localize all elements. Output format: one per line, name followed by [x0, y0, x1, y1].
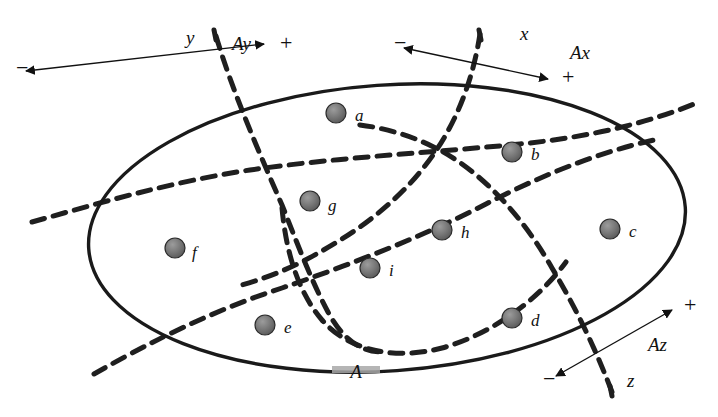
node-d-sphere[interactable]: [502, 308, 522, 328]
axis-x-plus-sign: +: [562, 64, 574, 89]
node-c-sphere[interactable]: [600, 219, 620, 239]
axis-letter-z: z: [626, 370, 635, 391]
node-f-sphere[interactable]: [165, 238, 185, 258]
diagram-canvas: a b c d e f g h i A y Ay − + x Ax − + z: [0, 0, 718, 417]
node-b-sphere[interactable]: [502, 142, 522, 162]
node-g-sphere[interactable]: [300, 191, 320, 211]
axis-arrow-x: [404, 48, 548, 79]
axis-x-minus-sign: −: [394, 30, 406, 55]
node-label-f: f: [192, 243, 199, 262]
axis-z-plus-sign: +: [684, 292, 696, 317]
axis-letter-y: y: [184, 27, 195, 48]
axis-x-annotations: x Ax − +: [394, 23, 591, 89]
node-label-g: g: [328, 196, 337, 215]
node-label-b: b: [531, 145, 540, 164]
node-label-i: i: [389, 261, 394, 280]
axis-z-minus-sign: −: [543, 366, 555, 391]
node-label-a: a: [355, 106, 364, 125]
node-label-h: h: [461, 223, 470, 242]
axis-letter-x: x: [519, 23, 529, 44]
node-label-e: e: [284, 318, 292, 337]
node-label-c: c: [629, 222, 637, 241]
partition-diagram-svg: a b c d e f g h i A y Ay − + x Ax − + z: [0, 0, 718, 417]
axis-component-label-ay: Ay: [230, 33, 252, 54]
node-i-sphere[interactable]: [360, 258, 380, 278]
node-h-sphere[interactable]: [432, 220, 452, 240]
axis-component-label-az: Az: [646, 334, 668, 355]
node-label-d: d: [531, 311, 540, 330]
region-a-label: A: [348, 361, 362, 382]
divider-curve-inner-lens: [282, 208, 566, 353]
node-e-sphere[interactable]: [255, 315, 275, 335]
axis-y-annotations: y Ay − +: [16, 27, 292, 80]
axis-component-label-ax: Ax: [568, 42, 591, 63]
tick-y-outer: [214, 30, 216, 40]
axis-y-minus-sign: −: [16, 55, 28, 80]
axis-arrows: [26, 44, 672, 376]
tick-x-outer: [479, 30, 481, 40]
node-a-sphere[interactable]: [326, 103, 346, 123]
tick-z-outer: [610, 386, 612, 396]
axis-y-plus-sign: +: [280, 30, 292, 55]
